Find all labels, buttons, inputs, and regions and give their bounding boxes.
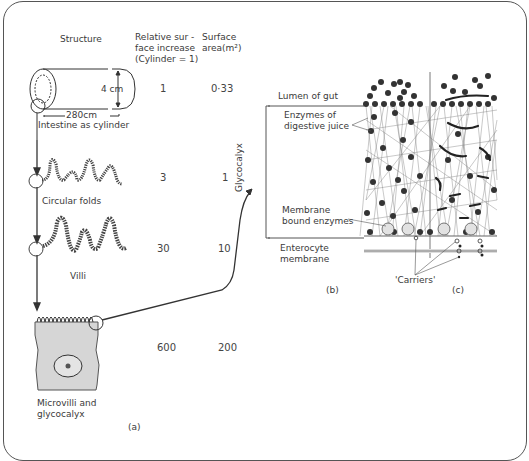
microvilli-cell-icon — [35, 316, 103, 390]
row-1-relative: 1 — [160, 83, 166, 94]
row-label-cylinder: Intestine as cylinder — [38, 120, 129, 131]
row-3-relative: 30 — [157, 243, 170, 254]
cylinder-length: 280cm — [65, 110, 98, 121]
lumen-label: Lumen of gut — [278, 91, 338, 102]
row-label-circular-folds: Circular folds — [42, 196, 101, 207]
row-3-area: 10 — [218, 243, 231, 254]
villi-icon — [29, 218, 126, 256]
panel-c-label: (c) — [452, 285, 464, 296]
cylinder-diameter: 4 cm — [101, 84, 123, 95]
row-4-area: 200 — [218, 342, 237, 353]
enzymes-juice-label: Enzymes of digestive juice — [284, 110, 349, 132]
carriers-label: 'Carriers' — [395, 275, 435, 286]
enterocyte-label: Enterocyte membrane — [280, 243, 329, 265]
row-label-villi: Villi — [70, 271, 86, 282]
panel-a-label: (a) — [128, 422, 141, 433]
membrane-enzymes-label: Membrane bound enzymes — [282, 205, 354, 227]
circular-folds-icon — [29, 160, 122, 189]
row-2-relative: 3 — [160, 172, 166, 183]
panel-b-label: (b) — [326, 285, 339, 296]
row-label-microvilli: Microvilli and glycocalyx — [37, 398, 96, 420]
row-2-area: 1 — [222, 172, 228, 183]
row-1-area: 0·33 — [211, 83, 233, 94]
glycocalyx-label: Glycocalyx — [234, 143, 245, 192]
row-4-relative: 600 — [157, 342, 176, 353]
